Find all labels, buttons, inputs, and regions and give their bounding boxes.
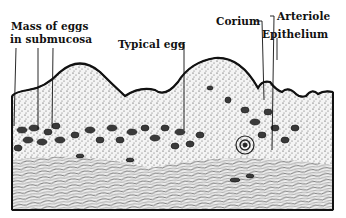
label-corium: Corium: [216, 15, 260, 27]
label-mass-of-eggs-line1: Mass of eggs: [11, 20, 89, 32]
label-epithelium: Epithelium: [262, 28, 328, 40]
label-typical-egg: Typical egg: [118, 38, 185, 50]
label-arteriole: Arteriole: [277, 10, 330, 22]
label-mass-of-eggs-line2: in submucosa: [10, 33, 92, 45]
